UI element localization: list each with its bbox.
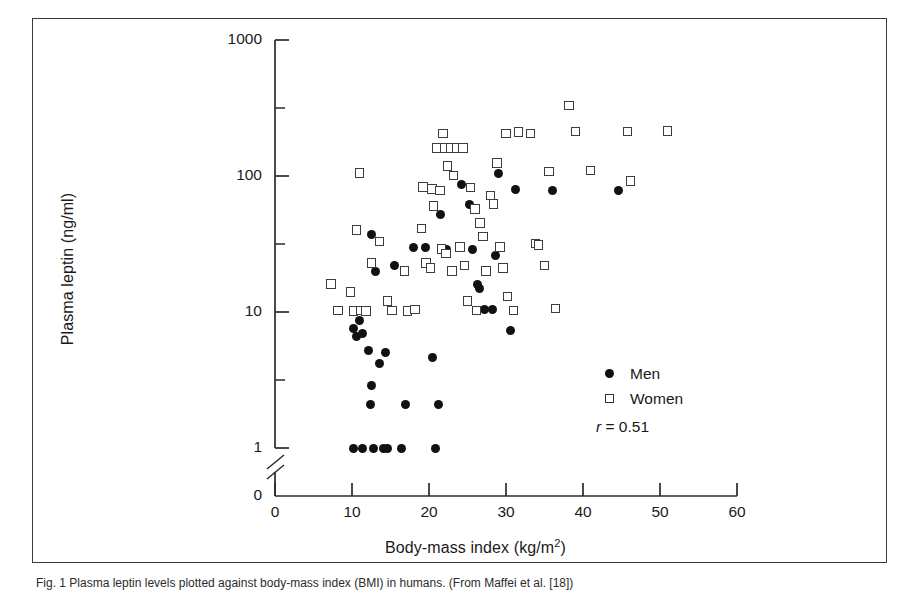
- data-point-men: [383, 444, 392, 453]
- data-point-women: [426, 263, 436, 273]
- data-point-women: [418, 182, 428, 192]
- data-point-men: [431, 444, 440, 453]
- data-point-women: [466, 183, 476, 193]
- ytick-1000: 1000: [196, 30, 262, 48]
- data-point-women: [400, 266, 410, 276]
- legend-label-men: Men: [622, 361, 660, 386]
- data-point-women: [361, 306, 371, 316]
- data-point-men: [409, 243, 418, 252]
- xtick-20: 20: [409, 503, 449, 521]
- data-point-women: [475, 218, 485, 228]
- data-point-women: [514, 127, 524, 137]
- data-point-men: [366, 400, 375, 409]
- data-point-men: [358, 444, 367, 453]
- figure-border: [32, 18, 887, 563]
- ytick-0: 0: [196, 486, 262, 504]
- data-point-women: [367, 258, 377, 268]
- legend-label-women: Women: [622, 386, 683, 411]
- data-point-men: [369, 444, 378, 453]
- data-point-women: [429, 201, 439, 211]
- data-point-men: [494, 169, 503, 178]
- data-point-women: [449, 171, 459, 181]
- data-point-women: [564, 101, 574, 111]
- data-point-women: [458, 143, 468, 153]
- correlation-annotation: r = 0.51: [596, 414, 683, 439]
- legend-item-men: Men: [596, 361, 683, 386]
- data-point-women: [417, 224, 427, 234]
- data-point-women: [326, 279, 336, 289]
- data-point-women: [470, 204, 480, 214]
- data-point-men: [548, 186, 557, 195]
- xtick-60: 60: [717, 503, 757, 521]
- data-point-women: [492, 158, 502, 168]
- legend-item-women: Women: [596, 386, 683, 411]
- data-point-women: [352, 225, 362, 235]
- data-point-men: [475, 284, 484, 293]
- data-point-women: [534, 240, 544, 250]
- data-point-women: [626, 176, 636, 186]
- xtick-30: 30: [486, 503, 526, 521]
- data-point-women: [501, 129, 511, 139]
- data-point-women: [375, 237, 385, 247]
- data-point-women: [481, 266, 491, 276]
- figure-caption: Fig. 1 Plasma leptin levels plotted agai…: [36, 576, 916, 591]
- ytick-1: 1: [196, 438, 262, 456]
- x-axis-label: Body-mass index (kg/m2): [385, 537, 566, 557]
- data-point-women: [447, 266, 457, 276]
- xtick-50: 50: [640, 503, 680, 521]
- data-point-women: [478, 232, 488, 242]
- ytick-100: 100: [196, 166, 262, 184]
- data-point-women: [460, 261, 470, 271]
- data-point-women: [551, 304, 561, 314]
- data-point-men: [397, 444, 406, 453]
- data-point-men: [349, 444, 358, 453]
- data-point-women: [498, 263, 508, 273]
- data-point-men: [491, 251, 500, 260]
- data-point-women: [586, 166, 596, 176]
- legend: Men Women r = 0.51: [596, 361, 683, 439]
- xtick-0: 0: [255, 503, 295, 521]
- data-point-men: [367, 381, 376, 390]
- data-point-women: [623, 127, 633, 137]
- data-point-women: [571, 127, 581, 137]
- data-point-men: [375, 359, 384, 368]
- y-axis-label: Plasma leptin (ng/ml): [59, 139, 77, 399]
- data-point-men: [371, 267, 380, 276]
- data-point-women: [503, 292, 513, 302]
- data-point-women: [355, 168, 365, 178]
- data-point-women: [495, 242, 505, 252]
- data-point-women: [438, 129, 448, 139]
- data-point-women: [387, 306, 397, 316]
- data-point-men: [390, 261, 399, 270]
- data-point-men: [358, 329, 367, 338]
- filled-circle-icon: [596, 369, 622, 378]
- data-point-women: [526, 129, 536, 139]
- data-point-women: [489, 199, 499, 209]
- data-point-women: [333, 306, 343, 316]
- open-square-icon: [596, 394, 622, 403]
- data-point-women: [472, 306, 482, 316]
- data-point-women: [455, 242, 465, 252]
- data-point-women: [540, 261, 550, 271]
- data-point-men: [511, 185, 520, 194]
- data-point-women: [544, 167, 554, 177]
- data-point-women: [435, 186, 445, 196]
- data-point-women: [410, 305, 420, 315]
- data-point-women: [346, 287, 356, 297]
- data-point-men: [468, 245, 477, 254]
- data-point-women: [443, 161, 453, 171]
- data-point-women: [663, 126, 673, 136]
- data-point-men: [421, 243, 430, 252]
- xtick-10: 10: [332, 503, 372, 521]
- data-point-women: [509, 306, 519, 316]
- xtick-40: 40: [563, 503, 603, 521]
- data-point-women: [463, 296, 473, 306]
- ytick-10: 10: [196, 302, 262, 320]
- data-point-women: [441, 249, 451, 259]
- data-point-men: [488, 305, 497, 314]
- correlation-value: = 0.51: [601, 418, 649, 435]
- data-point-men: [434, 400, 443, 409]
